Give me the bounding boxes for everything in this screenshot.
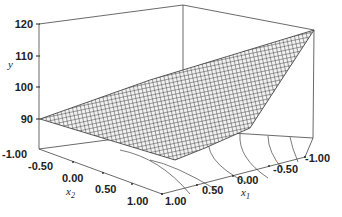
x2-tick-0: 0.00: [62, 172, 83, 184]
z-tick-110: 110: [15, 50, 33, 62]
x1-tick-05: 0.50: [202, 184, 223, 196]
x1-tick-neg1: -1.00: [305, 152, 330, 164]
x2-tick-neg1: -1.00: [2, 148, 27, 160]
x1-tick-0: 0.00: [237, 174, 258, 186]
z-axis: [36, 24, 40, 119]
response-surface: [40, 30, 314, 160]
x2-tick-05: 0.50: [95, 183, 116, 195]
x1-tick-neg05: -0.50: [273, 163, 298, 175]
z-tick-100: 100: [15, 81, 33, 93]
surface-plot: 120 110 100 90 y -1.00 -0.50 0.00 0.50 1…: [0, 0, 342, 217]
x1-tick-1: 1.00: [165, 195, 186, 207]
z-tick-90: 90: [21, 113, 33, 125]
x2-axis-label: x2: [65, 185, 75, 200]
x1-axis-label: x1: [240, 186, 250, 201]
z-axis-label: y: [7, 58, 13, 70]
z-tick-120: 120: [15, 18, 33, 30]
x2-tick-neg05: -0.50: [28, 160, 53, 172]
x2-tick-1: 1.00: [127, 195, 148, 207]
